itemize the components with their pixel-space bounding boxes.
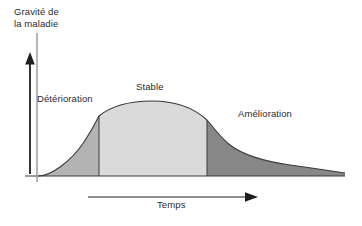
region-label-amelioration: Amélioration bbox=[238, 108, 292, 120]
x-axis-title: Temps bbox=[157, 199, 185, 211]
y-axis-title-line2: la maladie bbox=[14, 18, 58, 29]
region-label-deterioration: Détérioration bbox=[37, 93, 93, 105]
illness-trajectory-figure: Gravité dela maladie Détérioration Stabl… bbox=[0, 0, 362, 226]
region-amelioration-area bbox=[207, 120, 345, 176]
region-label-stable: Stable bbox=[136, 81, 164, 93]
trajectory-chart-canvas bbox=[0, 0, 362, 226]
y-axis-title-line1: Gravité de bbox=[14, 6, 59, 17]
y-axis-title: Gravité dela maladie bbox=[14, 6, 59, 30]
region-stable-area bbox=[99, 101, 207, 176]
y-axis-arrow-icon bbox=[25, 52, 35, 174]
region-deterioration-area bbox=[38, 116, 99, 176]
